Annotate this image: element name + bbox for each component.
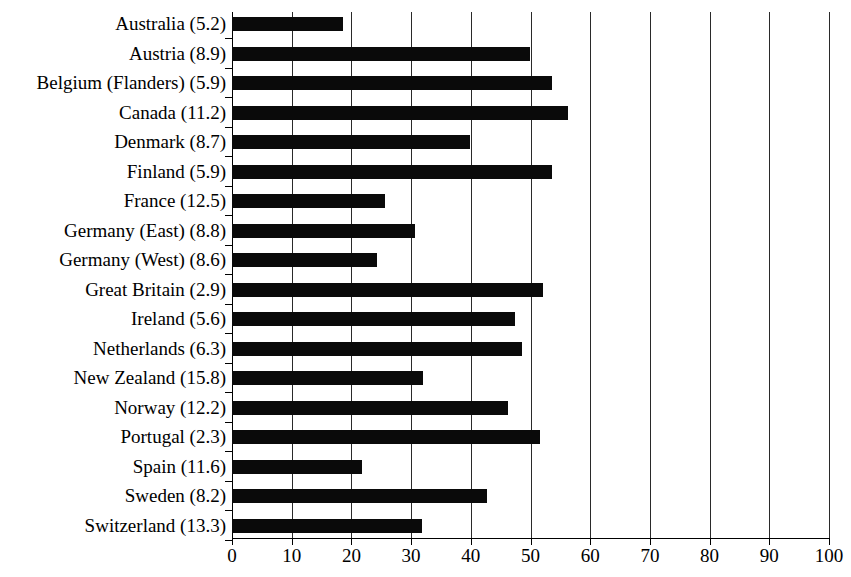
x-axis-tick [411, 538, 412, 545]
y-axis-tick [225, 363, 232, 364]
x-axis-tick-label: 30 [381, 546, 441, 566]
gridline-50 [531, 12, 532, 538]
bar [232, 194, 385, 208]
y-axis-tick [225, 510, 232, 511]
x-axis-tick [351, 538, 352, 545]
y-axis-tick [225, 215, 232, 216]
x-axis-tick [292, 538, 293, 545]
category-label: Switzerland (13.3) [4, 516, 232, 535]
category-label: Netherlands (6.3) [4, 339, 232, 358]
bar [232, 312, 515, 326]
x-axis-tick-label: 100 [799, 546, 851, 566]
gridline-100 [829, 12, 830, 538]
gridline-60 [590, 12, 591, 538]
category-label: Austria (8.9) [4, 44, 232, 63]
bar [232, 371, 423, 385]
bar [232, 106, 568, 120]
x-axis-tick-label: 0 [202, 546, 262, 566]
category-label: Norway (12.2) [4, 398, 232, 417]
x-axis-tick-label: 10 [262, 546, 322, 566]
category-label: Canada (11.2) [4, 103, 232, 122]
bar [232, 342, 522, 356]
category-label: France (12.5) [4, 191, 232, 210]
bar [232, 17, 343, 31]
gridline-80 [710, 12, 711, 538]
x-axis-tick [769, 538, 770, 545]
category-label: Finland (5.9) [4, 162, 232, 181]
bar [232, 165, 552, 179]
x-axis-tick-label: 70 [620, 546, 680, 566]
bar [232, 224, 415, 238]
x-axis-tick [710, 538, 711, 545]
y-axis-tick [225, 304, 232, 305]
category-label: Denmark (8.7) [4, 132, 232, 151]
y-axis-tick [225, 481, 232, 482]
y-axis-tick [225, 68, 232, 69]
x-axis-tick-label: 50 [501, 546, 561, 566]
category-label: Belgium (Flanders) (5.9) [4, 73, 232, 92]
y-axis-tick [225, 97, 232, 98]
category-label: Portugal (2.3) [4, 427, 232, 446]
bar [232, 135, 470, 149]
bar [232, 76, 552, 90]
gridline-90 [769, 12, 770, 538]
plot-area [232, 12, 829, 538]
x-axis-tick [471, 538, 472, 545]
x-axis-tick [531, 538, 532, 545]
bar [232, 460, 362, 474]
category-label: Germany (West) (8.6) [4, 250, 232, 269]
x-axis-tick-label: 90 [739, 546, 799, 566]
category-label: Ireland (5.6) [4, 309, 232, 328]
x-axis-tick [829, 538, 830, 545]
bar [232, 283, 543, 297]
gridline-70 [650, 12, 651, 538]
bar [232, 430, 540, 444]
gridline-40 [471, 12, 472, 538]
x-axis-tick-label: 60 [560, 546, 620, 566]
y-axis-tick [225, 451, 232, 452]
bar [232, 253, 377, 267]
category-label: Germany (East) (8.8) [4, 221, 232, 240]
y-axis-tick [225, 333, 232, 334]
y-axis-tick [225, 156, 232, 157]
category-label: Spain (11.6) [4, 457, 232, 476]
category-label: Great Britain (2.9) [4, 280, 232, 299]
bar [232, 47, 530, 61]
y-axis-tick [225, 127, 232, 128]
y-axis-tick [225, 38, 232, 39]
bar-chart: Australia (5.2)Austria (8.9)Belgium (Fla… [0, 0, 851, 577]
y-axis-tick [225, 540, 232, 541]
y-axis-tick [225, 274, 232, 275]
category-axis-labels: Australia (5.2)Austria (8.9)Belgium (Fla… [0, 0, 232, 577]
x-axis-tick [650, 538, 651, 545]
y-axis-tick [225, 245, 232, 246]
x-axis-tick [590, 538, 591, 545]
y-axis-tick [225, 186, 232, 187]
bar [232, 401, 508, 415]
x-axis-tick-label: 80 [680, 546, 740, 566]
bar [232, 489, 487, 503]
bar [232, 519, 422, 533]
y-axis-tick [225, 392, 232, 393]
category-label: New Zealand (15.8) [4, 368, 232, 387]
category-label: Australia (5.2) [4, 14, 232, 33]
category-label: Sweden (8.2) [4, 486, 232, 505]
gridline-30 [411, 12, 412, 538]
x-axis-tick-label: 40 [441, 546, 501, 566]
x-axis-tick [232, 538, 233, 545]
x-axis-tick-label: 20 [321, 546, 381, 566]
y-axis-tick [225, 422, 232, 423]
